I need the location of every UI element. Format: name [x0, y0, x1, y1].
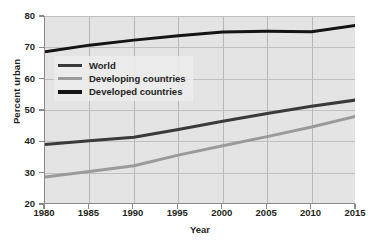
x-tick-label: 1985 [68, 208, 108, 218]
x-tick-label: 1980 [24, 208, 64, 218]
series-line [45, 25, 355, 51]
legend-item: Developing countries [58, 72, 186, 85]
x-tick-label: 2015 [335, 208, 373, 218]
chart-figure: 20304050607080 1980198519901995200020052… [0, 0, 373, 245]
legend: WorldDeveloping countriesDeveloped count… [54, 56, 193, 101]
legend-swatch-icon [58, 64, 82, 67]
legend-swatch-icon [58, 77, 82, 80]
legend-item: World [58, 59, 186, 72]
y-tick-label: 80 [5, 11, 35, 21]
x-tick-label: 1995 [157, 208, 197, 218]
legend-label: Developing countries [89, 73, 186, 84]
legend-label: World [89, 60, 116, 71]
y-axis-title: Percent urban [11, 47, 22, 137]
y-tick-label: 40 [5, 136, 35, 146]
x-axis-title: Year [150, 224, 250, 235]
plot-area [44, 16, 355, 204]
legend-label: Developed countries [89, 86, 182, 97]
series-lines [45, 16, 355, 204]
x-tick-label: 2000 [202, 208, 242, 218]
x-tick-label: 1990 [113, 208, 153, 218]
x-tick-label: 2010 [291, 208, 331, 218]
legend-item: Developed countries [58, 85, 186, 98]
series-line [45, 100, 355, 145]
legend-swatch-icon [58, 90, 82, 94]
y-tick-label: 30 [5, 168, 35, 178]
x-tick-label: 2005 [246, 208, 286, 218]
